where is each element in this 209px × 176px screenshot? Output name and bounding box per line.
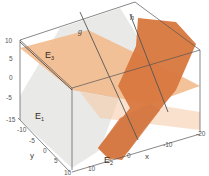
svg-text:0: 0: [43, 147, 47, 154]
y-axis-label: y: [30, 151, 34, 160]
svg-text:-5: -5: [6, 94, 12, 101]
3d-plot: 10 5 0 -5 -15 -10 -5 0 5 10 10 0 -10 -20…: [0, 0, 209, 176]
svg-text:10: 10: [5, 37, 13, 44]
svg-text:-10: -10: [163, 141, 173, 148]
label-h: h: [130, 13, 134, 22]
label-g: g: [78, 27, 82, 36]
svg-text:0: 0: [9, 74, 13, 81]
svg-text:5: 5: [54, 157, 58, 164]
svg-text:-20: -20: [196, 130, 206, 137]
svg-text:-5: -5: [29, 137, 35, 144]
x-axis-label: x: [145, 152, 149, 161]
svg-text:-10: -10: [17, 126, 27, 133]
svg-text:10: 10: [88, 165, 96, 172]
svg-text:-15: -15: [6, 116, 16, 123]
svg-text:0: 0: [127, 152, 131, 159]
svg-text:5: 5: [9, 55, 13, 62]
z-ticks: 10 5 0 -5: [5, 37, 13, 101]
svg-text:10: 10: [64, 169, 72, 176]
